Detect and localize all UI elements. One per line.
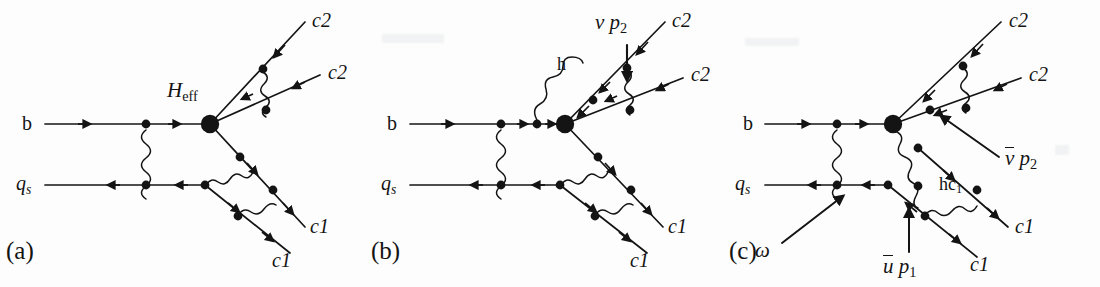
label-c1-bot: c1 [272, 250, 291, 270]
label-c2-mid: c2 [691, 64, 710, 84]
label-c2-mid: c2 [1029, 64, 1048, 84]
vertex-group [142, 65, 278, 221]
vertex-dot [591, 212, 600, 221]
vertex-dot [236, 153, 245, 162]
label-momentum-vbar-p2: v p2 [1005, 148, 1037, 171]
c1-bot-line [560, 185, 647, 253]
c2-mid-line [893, 78, 1021, 124]
vertex-dot [626, 106, 635, 115]
vertex-dot [497, 120, 506, 129]
arrow-c2top-a [972, 44, 983, 56]
label-c1-top: c1 [310, 216, 329, 236]
hard-vertex-dot [556, 115, 574, 133]
vertex-dot [142, 120, 151, 129]
label-c1-bot: c1 [630, 250, 649, 270]
label-c2-mid: c2 [328, 62, 347, 82]
label-c2-top: c2 [1009, 10, 1028, 30]
vertex-dot [921, 212, 930, 221]
arrow-c1top-a [247, 163, 257, 174]
label-hc1: hc1 [939, 175, 962, 196]
arrow-c1top-b [641, 203, 651, 214]
panel-c-diagram [725, 0, 1100, 287]
arrow-c2top-b [924, 90, 935, 101]
arrow-c1bot-b [619, 232, 630, 241]
hard-vertex-dot [201, 115, 219, 133]
label-b: b [387, 113, 397, 133]
label-b: b [22, 113, 32, 133]
arrow-c2top [274, 45, 285, 57]
arrow-c1top-b [987, 208, 998, 218]
panel-b: b qs h v p2 c2 c2 c1 c1 (b) [365, 0, 725, 287]
vertex-dot [926, 106, 935, 115]
label-qs: qs [735, 173, 750, 196]
gluon-c1-rung [925, 206, 977, 216]
label-qs: qs [381, 173, 396, 196]
vertex-dot [594, 153, 603, 162]
vertex-dot [259, 65, 268, 74]
vertex-dot [627, 186, 636, 195]
vertex-dot [269, 186, 278, 195]
arrow-c1bot-a [585, 203, 596, 212]
arrow-c1top-b [283, 203, 293, 214]
vertex-dot [833, 181, 842, 190]
figure-root: b qs Heff c2 c2 c1 c1 (a) [0, 0, 1100, 287]
arrow-c1bot-b [262, 232, 273, 241]
vertex-group [497, 64, 636, 221]
label-momentum-v-p2: v p2 [595, 12, 627, 35]
vertex-dot [589, 96, 598, 105]
arrow-c2mid-b [293, 82, 305, 88]
arrow-c2mid-a [242, 94, 253, 99]
c2-top-line [565, 22, 665, 124]
vertex-dot [914, 182, 923, 191]
c2-top-line [893, 22, 1001, 124]
vertex-dot [262, 106, 271, 115]
vertex-dot [959, 62, 968, 71]
gluon-c1-rung [595, 204, 633, 215]
c2-top-line [210, 22, 305, 124]
vertex-dot [556, 181, 565, 190]
gluon-hc1-long [895, 131, 918, 208]
vertex-group [833, 62, 982, 221]
vertex-dot [833, 120, 842, 129]
panel-a-diagram [0, 0, 365, 287]
vertex-dot [914, 144, 923, 153]
label-qs: qs [16, 173, 31, 196]
panel-a: b qs Heff c2 c2 c1 c1 (a) [0, 0, 365, 287]
label-momentum-ubar-p1: u p1 [883, 256, 916, 279]
vertex-dot [962, 104, 971, 113]
hard-vertex-dot [884, 115, 902, 133]
omega-pointer-arrow [782, 196, 843, 243]
c1-bot-line [888, 185, 977, 257]
panel-tag-b: (b) [371, 238, 400, 263]
vertex-dot [142, 181, 151, 190]
gluon-c1-upper [561, 172, 608, 185]
panel-c: b qs v p2 u p1 ω hc1 c2 c2 c1 c1 (c) [725, 0, 1100, 287]
panel-b-diagram [365, 0, 725, 287]
vertex-dot [623, 64, 632, 73]
label-c1-bot: c1 [970, 254, 989, 274]
panel-tag-c: (c) [729, 238, 757, 263]
panel-tag-a: (a) [6, 238, 34, 263]
label-c1-top: c1 [1015, 216, 1034, 236]
label-c2-top: c2 [672, 10, 691, 30]
label-omega: ω [755, 240, 770, 261]
gluon-c1-upper [206, 172, 253, 185]
label-c1-top: c1 [668, 216, 687, 236]
c1-bot-line [205, 185, 290, 253]
arrow-c2mid-a [935, 110, 947, 115]
arrow-c1bot-b [949, 234, 960, 243]
vertex-dot [497, 181, 506, 190]
label-heff: Heff [167, 80, 198, 103]
vertex-dot [201, 181, 210, 190]
label-b: b [743, 113, 753, 133]
vertex-dot [234, 212, 243, 221]
gluon-c1-rung [238, 204, 276, 215]
vertex-dot [884, 181, 893, 190]
vertex-dot [973, 186, 982, 195]
label-c2-top: c2 [312, 10, 331, 30]
label-gluon-h: h [557, 55, 566, 73]
arrow-c2mid-a [606, 96, 617, 101]
vertex-dot [533, 120, 542, 129]
arrow-c1bot-a [228, 203, 239, 212]
vbar-p2-pointer-arrow [941, 116, 999, 157]
